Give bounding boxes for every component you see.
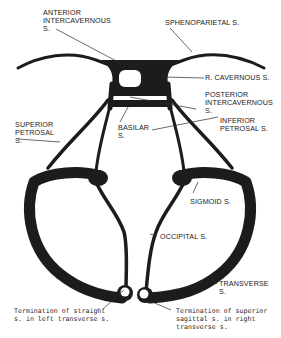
label-superior-petrosal: SUPERIOR PETROSAL S.	[15, 121, 54, 145]
left-inferior-petrosal-sinus	[96, 106, 110, 172]
label-sphenoparietal: SPHENOPARIETAL S.	[165, 19, 239, 27]
label-basilar: BASILAR S.	[118, 124, 149, 140]
basilar-sinus	[110, 100, 170, 107]
right-inferior-petrosal-sinus	[170, 106, 184, 172]
left-sphenoparietal-sinus	[18, 55, 112, 68]
label-transverse: TRANSVERSE S.	[219, 280, 269, 296]
label-occipital: OCCIPITAL S.	[160, 233, 207, 241]
label-anterior-intercavernous: ANTERIOR INTERCAVERNOUS S.	[43, 9, 111, 33]
label-inferior-petrosal: INFERIOR PETROSAL S.	[220, 117, 268, 133]
basilar-gap	[114, 96, 166, 100]
label-sigmoid: SIGMOID S.	[190, 198, 231, 206]
label-termination-straight: Termination of straight s. in left trans…	[14, 307, 109, 323]
right-sphenoparietal-sinus	[168, 55, 264, 68]
label-termination-superior-sagittal: Termination of superior sagittal s. in r…	[176, 307, 267, 331]
left-occipital-sinus	[96, 182, 127, 292]
left-sigmoid-transverse-sinus	[30, 173, 122, 298]
anterior-intercavernous-opening	[119, 70, 141, 87]
label-r-cavernous: R. CAVERNOUS S.	[205, 74, 269, 82]
label-posterior-intercavernous: POSTERIOR INTERCAVERNOUS S.	[205, 91, 273, 115]
